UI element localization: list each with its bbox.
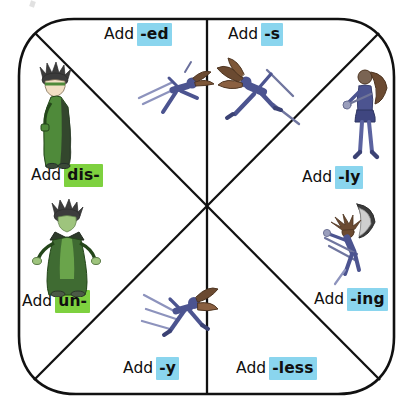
figure-blue-skier-striding — [213, 52, 301, 128]
sector-label-add-ed: Add-ed — [104, 27, 172, 43]
sector-verb-add-ly: Add — [302, 168, 332, 186]
sector-label-add-y: Add-y — [123, 361, 179, 377]
sector-affix-add-s: -s — [261, 23, 283, 46]
sector-verb-add-s: Add — [228, 25, 258, 43]
sector-affix-add-less: -less — [269, 357, 316, 380]
sector-verb-add-y: Add — [123, 359, 153, 377]
figure-blue-skater-standing-with-pole — [337, 60, 393, 164]
sector-label-add-ly: Add-ly — [302, 170, 363, 186]
sector-affix-add-y: -y — [156, 357, 179, 380]
sector-verb-add-less: Add — [236, 359, 266, 377]
prefix-suffix-wheel-worksheet: Add-ed Add-s Add-ly Add-ing Add-less Add… — [0, 0, 413, 414]
figure-blue-skier-leaping — [133, 58, 217, 124]
sector-label-add-less: Add-less — [236, 361, 317, 377]
figure-green-caped-character-standing — [27, 57, 87, 169]
sector-label-add-dis: Adddis- — [31, 168, 103, 184]
sector-label-add-ing: Add-ing — [314, 292, 388, 308]
sector-affix-add-ing: -ing — [347, 288, 387, 311]
sector-affix-add-ly: -ly — [335, 166, 363, 189]
figure-blue-skier-gliding — [140, 275, 224, 345]
figure-blue-skater-jumping — [315, 198, 387, 286]
sector-label-add-s: Add-s — [228, 27, 283, 43]
sector-verb-add-ing: Add — [314, 290, 344, 308]
sector-affix-add-ed: -ed — [137, 23, 171, 46]
figure-green-caped-character-arms-out — [31, 195, 103, 297]
sector-verb-add-ed: Add — [104, 25, 134, 43]
